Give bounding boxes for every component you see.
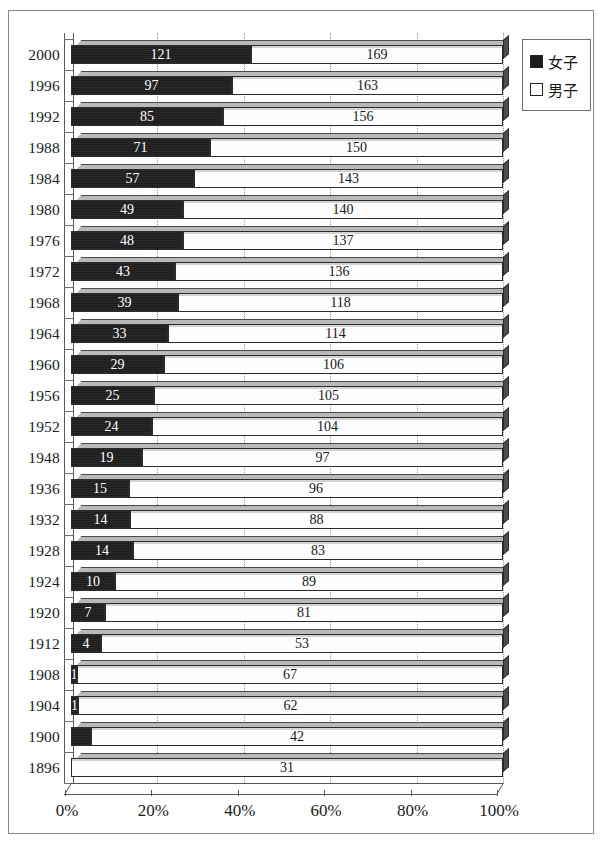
y-axis-tick-label: 1972 [28, 263, 60, 281]
bar-segment-female: 33 [71, 324, 168, 343]
y-axis-tick-label: 1924 [28, 573, 60, 591]
bar-value-label-male: 89 [302, 575, 316, 589]
bar-value-label-male: 143 [338, 172, 359, 186]
bar-value-label-male: 62 [284, 699, 298, 713]
bar-segment-female: 121 [71, 45, 251, 64]
y-axis-tick-label: 1896 [28, 759, 60, 777]
x-axis-tick-label: 100% [479, 801, 519, 821]
bar-segment-female: 15 [71, 479, 129, 498]
legend-item-male: 男子 [530, 75, 590, 103]
legend-swatch-male-icon [530, 83, 543, 96]
bar-segment-female: 39 [71, 293, 178, 312]
bar-value-label-male: 118 [330, 296, 350, 310]
bar-segment-male: 106 [164, 355, 503, 374]
bar-segment-male: 163 [232, 76, 503, 95]
y-axis-tick-label: 1904 [28, 697, 60, 715]
x-axis-tick-label: 60% [311, 801, 342, 821]
y-axis-tick-label: 1988 [28, 139, 60, 157]
bar-segment-male: 143 [194, 169, 503, 188]
bar-value-label-male: 31 [280, 761, 294, 775]
bar-segment-male: 169 [251, 45, 503, 64]
y-axis-tick-label: 1960 [28, 356, 60, 374]
bar-right-face [503, 562, 509, 586]
y-axis-tick-label: 1900 [28, 728, 60, 746]
bar-segment-female: 14 [71, 510, 130, 529]
bar-right-face [503, 190, 509, 214]
bar-segment-male: 67 [77, 665, 503, 684]
bar-value-label-male: 81 [297, 606, 311, 620]
chart-row: 19241089 [71, 566, 503, 597]
bar-value-label-male: 150 [346, 141, 367, 155]
bar-segment-male: 136 [175, 262, 503, 281]
stacked-bar: 167 [71, 665, 503, 684]
bar-segment-female: 85 [71, 107, 223, 126]
bar-value-label-female: 39 [118, 296, 132, 310]
bar-segment-female: 71 [71, 138, 210, 157]
y-axis-tick-label: 2000 [28, 46, 60, 64]
bar-right-face [503, 438, 509, 462]
chart-row: 19281483 [71, 535, 503, 566]
bar-segment-female: 25 [71, 386, 154, 405]
y-axis-tick-label: 1968 [28, 294, 60, 312]
bar-right-face [503, 128, 509, 152]
bar-right-face [503, 35, 509, 59]
x-axis-tick [411, 790, 412, 796]
y-axis-tick-label: 1952 [28, 418, 60, 436]
chart-row: 195625105 [71, 380, 503, 411]
x-axis-tick-label: 80% [397, 801, 428, 821]
bar-segment-female: 57 [71, 169, 194, 188]
legend: 女子 男子 [522, 39, 591, 111]
bar-value-label-female: 71 [134, 141, 148, 155]
bar-segment-male: 137 [183, 231, 503, 250]
stacked-bar: 1089 [71, 572, 503, 591]
stacked-bar: 25105 [71, 386, 503, 405]
bar-right-face [503, 593, 509, 617]
bar-value-label-female: 10 [86, 575, 100, 589]
bar-segment-male: 118 [178, 293, 503, 312]
bar-value-label-female: 24 [105, 420, 119, 434]
bar-segment-female: 4 [71, 634, 101, 653]
bar-value-label-male: 156 [353, 110, 374, 124]
bar-value-label-female: 25 [106, 389, 120, 403]
stacked-bar: 162 [71, 696, 503, 715]
y-axis-tick-label: 1980 [28, 201, 60, 219]
x-axis [64, 783, 504, 795]
chart-row: 198871150 [71, 132, 503, 163]
stacked-bar: 42 [71, 727, 503, 746]
bar-value-label-male: 163 [357, 79, 378, 93]
y-axis-tick-label: 1992 [28, 108, 60, 126]
bar-value-label-male: 106 [323, 358, 344, 372]
stacked-bar: 33114 [71, 324, 503, 343]
bar-segment-male: 140 [183, 200, 503, 219]
chart-row: 198457143 [71, 163, 503, 194]
bar-value-label-female: 97 [145, 79, 159, 93]
bar-right-face [503, 655, 509, 679]
bar-value-label-male: 114 [325, 327, 345, 341]
legend-swatch-female-icon [530, 55, 543, 68]
bar-value-label-female: 121 [151, 48, 172, 62]
bar-right-face [503, 624, 509, 648]
bar-segment-male: 62 [78, 696, 503, 715]
chart-row: 19321488 [71, 504, 503, 535]
stacked-bar: 121169 [71, 45, 503, 64]
stacked-bar: 1596 [71, 479, 503, 498]
x-axis-front-line [64, 794, 497, 795]
chart-frame: 2000121169199697163199285156198871150198… [8, 10, 594, 834]
x-axis-back-line [71, 783, 503, 784]
chart-row: 1920781 [71, 597, 503, 628]
stacked-bar: 453 [71, 634, 503, 653]
stacked-bar: 97163 [71, 76, 503, 95]
bar-right-face [503, 500, 509, 524]
bar-segment-male: 150 [210, 138, 503, 157]
stacked-bar: 1483 [71, 541, 503, 560]
chart-row: 199285156 [71, 101, 503, 132]
bar-segment-female: 24 [71, 417, 152, 436]
bar-right-face [503, 407, 509, 431]
stacked-bar: 1997 [71, 448, 503, 467]
bar-value-label-female: 4 [83, 637, 90, 651]
bar-right-face [503, 376, 509, 400]
y-axis-tick-label: 1956 [28, 387, 60, 405]
bar-segment-male: 96 [129, 479, 503, 498]
bar-segment-male: 83 [133, 541, 503, 560]
y-axis-tick-label: 1928 [28, 542, 60, 560]
